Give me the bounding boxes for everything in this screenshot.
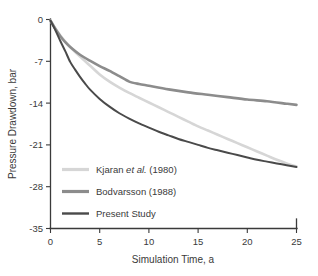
legend-label-present-study: Present Study xyxy=(96,208,156,219)
legend-label-kjaran-suffix: (1980) xyxy=(147,164,177,175)
series-group xyxy=(51,21,297,167)
chart-legend: Kjaran et al. (1980) Bodvarsson (1988) P… xyxy=(62,164,177,219)
x-tick-label: 25 xyxy=(291,236,302,247)
legend-label-bodvarsson: Bodvarsson (1988) xyxy=(96,186,176,197)
y-axis-tick-labels: 0 -7 -14 -21 -28 -35 xyxy=(29,14,43,234)
y-tick-label: 0 xyxy=(38,14,43,25)
y-tick-label: -28 xyxy=(29,181,43,192)
x-tick-label: 10 xyxy=(144,236,155,247)
x-tick-label: 0 xyxy=(48,236,53,247)
x-axis-ticks xyxy=(51,229,297,234)
y-tick-label: -35 xyxy=(29,223,43,234)
y-tick-label: -7 xyxy=(35,56,43,67)
x-tick-label: 15 xyxy=(193,236,204,247)
y-tick-label: -14 xyxy=(29,98,43,109)
y-axis-title: Pressure Drawdown, bar xyxy=(7,68,18,179)
x-tick-label: 5 xyxy=(97,236,102,247)
legend-label-kjaran: Kjaran et al. (1980) xyxy=(96,164,177,175)
series-present-study xyxy=(51,21,297,167)
series-kjaran-1980 xyxy=(51,21,297,167)
axis-frame xyxy=(50,19,297,229)
x-axis-title: Simulation Time, a xyxy=(132,254,215,265)
y-axis-ticks xyxy=(46,20,50,229)
legend-label-kjaran-italic: et al. xyxy=(126,164,147,175)
y-tick-label: -21 xyxy=(29,139,43,150)
x-tick-label: 20 xyxy=(242,236,253,247)
x-axis-tick-labels: 0 5 10 15 20 25 xyxy=(48,236,302,247)
legend-label-kjaran-prefix: Kjaran xyxy=(96,164,126,175)
pressure-drawdown-line-chart: 0 -7 -14 -21 -28 -35 0 5 10 15 20 25 Sim… xyxy=(0,0,318,276)
chart-figure: 0 -7 -14 -21 -28 -35 0 5 10 15 20 25 Sim… xyxy=(0,0,318,276)
